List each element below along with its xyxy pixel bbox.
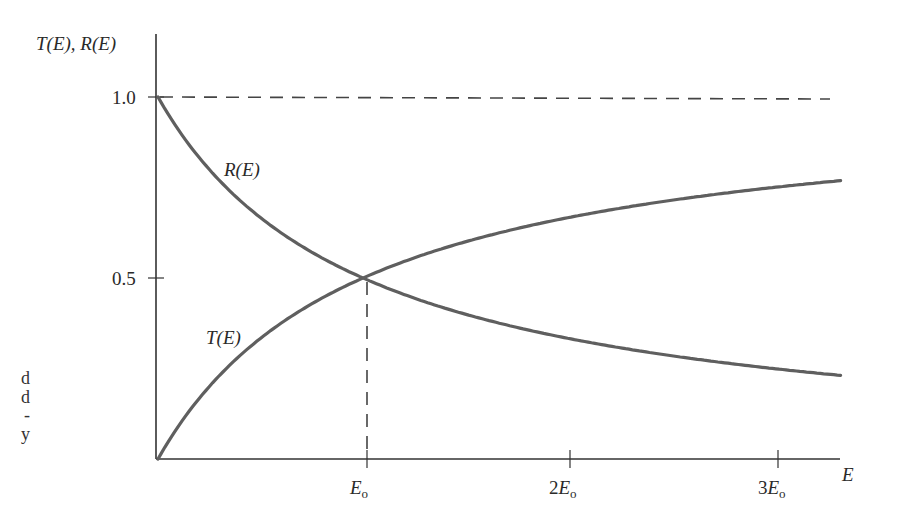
y-tick-label-1: 1.0 xyxy=(112,87,136,108)
asymptote-dashed-line xyxy=(160,97,830,99)
x-tick-label-e0: Eo xyxy=(349,477,368,501)
y-tick-label-05: 0.5 xyxy=(112,268,136,289)
caption-fragment: d xyxy=(0,388,30,407)
r-curve-label: R(E) xyxy=(223,159,260,181)
caption-fragment: y xyxy=(0,425,30,444)
caption-fragment: d xyxy=(0,369,30,388)
t-curve-label: T(E) xyxy=(206,327,241,349)
t-curve xyxy=(158,181,841,459)
y-axis-title: T(E), R(E) xyxy=(36,33,116,55)
caption-fragment: - xyxy=(0,406,30,425)
x-axis-title: E xyxy=(841,464,854,485)
r-curve xyxy=(158,97,841,375)
x-tick-label-3e0: 3Eo xyxy=(758,477,786,501)
transmission-reflection-chart: T(E), R(E) 1.0 0.5 R(E) T(E) Eo 2Eo 3Eo … xyxy=(0,0,897,524)
cropped-caption-fragment: d d - y xyxy=(0,369,30,443)
x-tick-label-2e0: 2Eo xyxy=(549,477,577,501)
